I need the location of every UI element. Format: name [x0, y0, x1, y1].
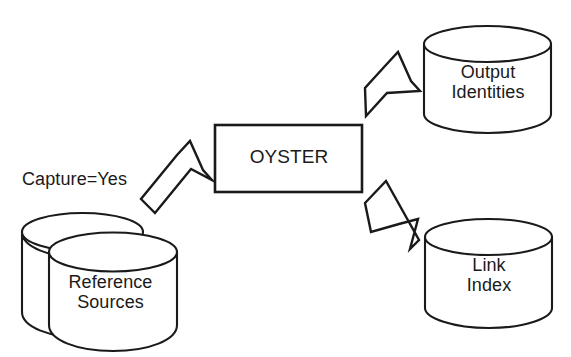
diagram-canvas: Capture=Yes OYSTER Output Identities Lin… — [0, 0, 571, 357]
link-index-label: Link Index — [425, 255, 553, 295]
arrow-output-identities-flow — [365, 52, 420, 116]
arrow-link-index-flow — [365, 181, 419, 249]
oyster-box-label: OYSTER — [215, 146, 363, 167]
arrow-input-flow — [141, 141, 212, 213]
capture-flag-label: Capture=Yes — [22, 169, 127, 189]
output-identities-label: Output Identities — [424, 62, 552, 102]
reference-sources-label: Reference Sources — [50, 272, 171, 312]
